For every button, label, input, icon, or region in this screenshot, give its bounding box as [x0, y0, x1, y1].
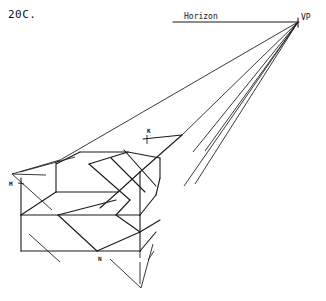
- lower-box: [21, 195, 160, 251]
- vanishing-lines: [55, 22, 298, 186]
- vp-label: VP: [301, 13, 311, 22]
- point-n-label: N: [98, 255, 102, 262]
- construction-lines: [12, 157, 154, 288]
- perspective-drawing: Horizon VP: [0, 0, 326, 301]
- point-m-label: M: [9, 180, 13, 187]
- point-k-label: K: [147, 127, 151, 134]
- horizon-label: Horizon: [184, 12, 218, 21]
